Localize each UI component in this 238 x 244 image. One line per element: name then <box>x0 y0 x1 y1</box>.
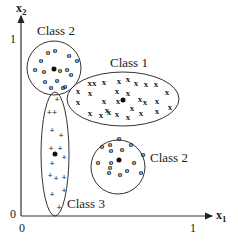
y-axis-label: x2 <box>16 1 27 17</box>
svg-text:o: o <box>120 144 125 154</box>
svg-text:o: o <box>109 145 114 155</box>
svg-text:o: o <box>75 55 80 65</box>
svg-text:o: o <box>58 65 63 75</box>
svg-text:o: o <box>55 75 60 85</box>
svg-text:xx: xx <box>88 78 98 88</box>
svg-text:o: o <box>67 50 72 60</box>
svg-text:x: x <box>126 74 131 84</box>
x-origin-tick: 0 <box>19 221 25 235</box>
svg-text:x: x <box>134 78 139 88</box>
svg-text:x: x <box>76 97 81 107</box>
centroid <box>53 152 58 157</box>
cluster-diagram: x1 x2 0 0 1 1 Class 2 ooo oo ooooo oo oo… <box>0 0 238 244</box>
svg-text:+: + <box>48 143 53 153</box>
svg-text:o: o <box>118 169 123 179</box>
y-max-tick: 1 <box>10 32 16 46</box>
svg-text:o: o <box>129 139 134 149</box>
svg-text:o: o <box>42 66 47 76</box>
o-markers: o ooo ooo ooo oooo o <box>96 133 146 179</box>
svg-text:x: x <box>143 97 148 107</box>
class1-label: Class 1 <box>110 55 148 70</box>
centroid <box>121 98 126 103</box>
x-max-tick: 1 <box>190 221 196 235</box>
svg-text:x: x <box>99 110 104 120</box>
svg-text:+: + <box>61 172 66 182</box>
svg-text:o: o <box>43 76 48 86</box>
svg-text:o: o <box>139 167 144 177</box>
y-origin-tick: 0 <box>10 207 16 221</box>
svg-text:+: + <box>49 158 54 168</box>
svg-text:x: x <box>76 86 81 96</box>
svg-text:+: + <box>58 130 63 140</box>
svg-text:x: x <box>154 79 159 89</box>
svg-text:+: + <box>49 125 54 135</box>
svg-text:o: o <box>125 165 130 175</box>
class2-bottom-label: Class 2 <box>150 150 188 165</box>
svg-text:x: x <box>126 88 131 98</box>
svg-text:o: o <box>107 167 112 177</box>
svg-text:x: x <box>115 109 120 119</box>
svg-text:o: o <box>100 141 105 151</box>
cluster-class1: Class 1 xxxxxxxx xxxxx xxxxxx xxx xxxxxx… <box>67 55 179 126</box>
cluster-class2-top: Class 2 ooo oo ooooo oo ooo <box>27 23 81 95</box>
svg-text:o: o <box>39 55 44 65</box>
svg-text:x: x <box>168 102 173 112</box>
svg-text:+: + <box>47 170 52 180</box>
svg-text:o: o <box>63 81 68 91</box>
svg-text:o: o <box>96 157 101 167</box>
svg-text:o: o <box>141 149 146 159</box>
svg-text:o: o <box>53 45 58 55</box>
svg-text:x: x <box>139 108 144 118</box>
centroid <box>117 158 122 163</box>
class3-label: Class 3 <box>67 196 105 211</box>
svg-text:o: o <box>69 69 74 79</box>
svg-text:+: + <box>61 152 66 162</box>
cluster-class3: Class 3 + ++ ++ ++ ++ +++ ++ + <box>41 92 105 216</box>
svg-text:x: x <box>102 77 107 87</box>
svg-text:+: + <box>61 185 66 195</box>
svg-text:x: x <box>126 112 131 122</box>
centroid <box>52 67 57 72</box>
svg-text:x: x <box>130 103 135 113</box>
svg-text:x: x <box>155 96 160 106</box>
class2-top-label: Class 2 <box>37 23 75 38</box>
svg-text:o: o <box>117 133 122 143</box>
svg-text:x: x <box>144 79 149 89</box>
x-axis-label: x1 <box>216 208 227 224</box>
svg-text:++: ++ <box>47 107 57 117</box>
cluster-class2-bottom: Class 2 o ooo ooo ooo oooo o <box>91 133 188 194</box>
svg-text:+: + <box>54 94 59 104</box>
svg-text:+: + <box>56 202 61 212</box>
svg-text:x: x <box>117 76 122 86</box>
svg-text:x: x <box>107 107 112 117</box>
svg-text:+: + <box>53 173 58 183</box>
svg-text:+: + <box>49 189 54 199</box>
svg-text:o: o <box>132 157 137 167</box>
svg-text:o: o <box>46 47 51 57</box>
svg-text:x: x <box>88 108 93 118</box>
svg-text:x: x <box>115 86 120 96</box>
svg-text:x: x <box>165 87 170 97</box>
svg-text:x: x <box>155 106 160 116</box>
svg-text:x: x <box>88 88 93 98</box>
svg-text:o: o <box>33 64 38 74</box>
svg-text:x: x <box>116 96 121 106</box>
svg-text:o: o <box>49 82 54 92</box>
